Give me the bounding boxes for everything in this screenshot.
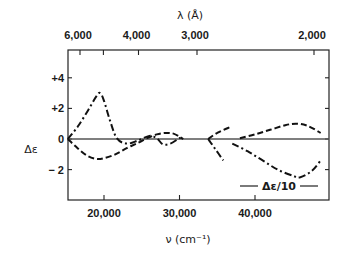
- bottom-axis: 20,00030,00040,000: [87, 195, 272, 219]
- series-dashed: [68, 124, 321, 159]
- series-dashed-segment: [68, 133, 184, 159]
- top-tick-label: 6,000: [64, 29, 92, 41]
- series-layer: [68, 93, 321, 178]
- chart: λ (Å) 6,0004,0003,0002,000 20,00030,0004…: [0, 0, 341, 259]
- y-tick-label: +2: [51, 102, 64, 114]
- top-axis: 6,0004,0003,0002,000: [64, 29, 326, 55]
- top-tick-label: 2,000: [298, 29, 326, 41]
- y-axis: +4+20− 2: [48, 72, 329, 176]
- plot-frame: [68, 50, 329, 200]
- series-dash-dot: [68, 93, 321, 178]
- y-tick-label: 0: [58, 133, 64, 145]
- series-dashed-segment: [240, 124, 321, 139]
- legend: Δε/10: [240, 180, 318, 193]
- x-axis-title: ν (cm⁻¹): [165, 233, 210, 246]
- y-tick-label: +4: [51, 72, 64, 84]
- top-tick-label: 4,000: [123, 29, 151, 41]
- y-tick-label: − 2: [48, 164, 64, 176]
- y-axis-title: Δε: [24, 143, 38, 156]
- x-tick-label: 20,000: [87, 207, 121, 219]
- top-tick-label: 3,000: [181, 29, 209, 41]
- series-dashed-segment: [208, 127, 231, 139]
- series-dash-dot-segment: [232, 144, 320, 178]
- legend-label: Δε/10: [262, 180, 296, 193]
- series-dash-dot-segment: [208, 139, 223, 160]
- top-axis-title: λ (Å): [177, 9, 203, 22]
- series-dash-dot-segment: [68, 93, 181, 145]
- x-tick-label: 30,000: [163, 207, 197, 219]
- x-tick-label: 40,000: [238, 207, 272, 219]
